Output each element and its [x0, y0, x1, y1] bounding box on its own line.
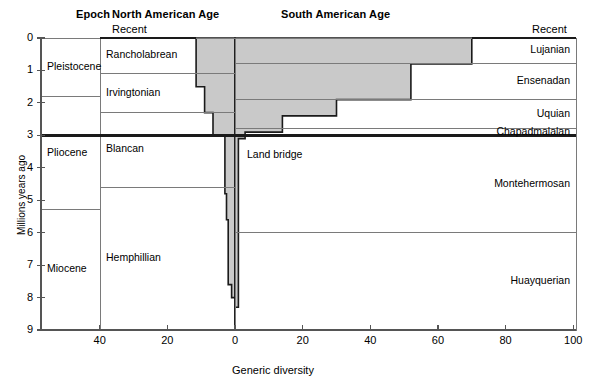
x-tick-label: 100: [560, 334, 586, 346]
x-tick-label: 20: [154, 334, 180, 346]
x-tick-label: 80: [493, 334, 519, 346]
x-tick-label: 40: [357, 334, 383, 346]
sa-age-label-ensenadan: Ensenadan: [0, 74, 570, 86]
na-age-label-hemphillian: Hemphillian: [106, 251, 161, 263]
annotation-land-bridge: Land bridge: [247, 148, 302, 160]
y-tick-label: 5: [19, 193, 33, 205]
epoch-label-pleistocene: Pleistocene: [47, 60, 101, 72]
y-tick-label: 6: [19, 226, 33, 238]
na-age-label-irvingtonian: Irvingtonian: [106, 86, 160, 98]
sa-age-label-uquian: Uquian: [0, 107, 570, 119]
figure-root: Epoch North American Age South American …: [0, 0, 609, 386]
x-tick-label: 0: [222, 334, 248, 346]
x-tick-label: 40: [87, 334, 113, 346]
y-tick-label: 8: [19, 291, 33, 303]
x-tick-label: 20: [290, 334, 316, 346]
chart-canvas: [0, 0, 609, 386]
y-tick-label: 9: [19, 323, 33, 335]
na-age-label-blancan: Blancan: [106, 142, 144, 154]
epoch-label-pliocene: Pliocene: [47, 146, 87, 158]
sa-age-label-chapadmalalan: Chapadmalalan: [0, 125, 570, 137]
sa-age-label-montehermosan: Montehermosan: [0, 177, 570, 189]
x-tick-label: 60: [425, 334, 451, 346]
y-tick-label: 0: [19, 31, 33, 43]
y-tick-label: 4: [19, 161, 33, 173]
epoch-label-miocene: Miocene: [47, 262, 87, 274]
y-tick-label: 7: [19, 258, 33, 270]
sa-age-label-huayquerian: Huayquerian: [0, 274, 570, 286]
sa-age-label-lujanian: Lujanian: [0, 43, 570, 55]
